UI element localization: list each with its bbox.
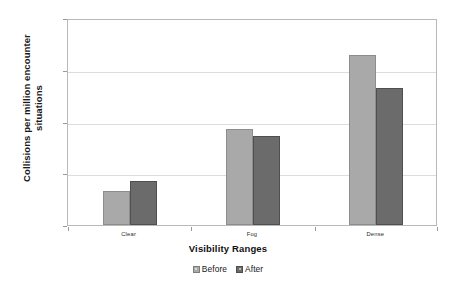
x-tick-label-dense: Dense: [330, 231, 420, 237]
x-tick-label-clear: Clear: [84, 231, 174, 237]
category-tick: [437, 227, 438, 231]
legend-label-before: Before: [202, 264, 227, 274]
legend-swatch-after: [236, 266, 243, 273]
x-axis-title: Visibility Ranges: [0, 243, 456, 254]
y-axis-title: Collisions per million encounter situati…: [21, 13, 45, 203]
plot-area: [67, 19, 437, 226]
bar-dense-before: [349, 55, 376, 225]
chart-legend: BeforeAfter: [0, 264, 456, 274]
bar-chart: Collisions per million encounter situati…: [0, 0, 456, 293]
legend-item-after[interactable]: After: [236, 264, 263, 274]
legend-item-before[interactable]: Before: [193, 264, 227, 274]
bar-clear-after: [130, 181, 157, 225]
category-tick: [191, 227, 192, 231]
bar-dense-after: [376, 88, 403, 225]
bar-fog-after: [253, 136, 280, 225]
category-tick: [68, 227, 69, 231]
bar-clear-before: [103, 191, 130, 225]
legend-swatch-before: [193, 266, 200, 273]
category-tick: [315, 227, 316, 231]
legend-label-after: After: [245, 264, 263, 274]
y-tick-mark: [63, 226, 67, 227]
bar-fog-before: [226, 129, 253, 225]
gridline: [68, 72, 436, 73]
x-tick-label-fog: Fog: [207, 231, 297, 237]
